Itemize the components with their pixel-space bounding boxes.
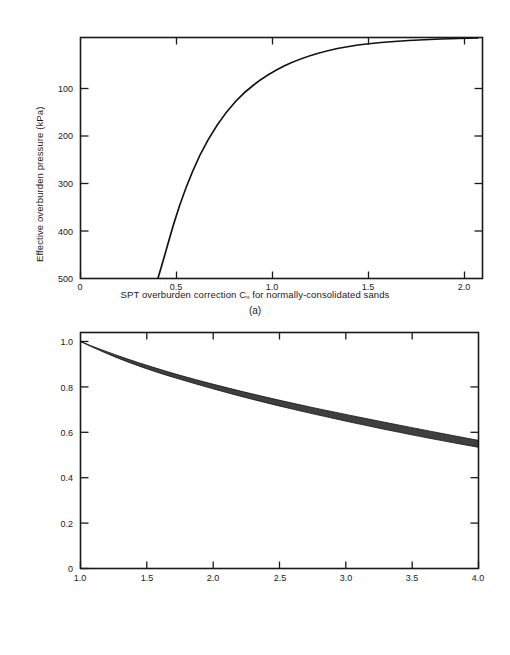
panel-a-axes-frame — [81, 38, 483, 279]
panel-a-ytick-500: 500 — [58, 274, 73, 284]
panel-a-ylabel: Effective overburden pressure (kPa) — [34, 107, 45, 262]
panel-a-ytick-200: 200 — [58, 131, 73, 141]
panel-b-xticks — [81, 562, 479, 569]
panel-b-xtick-2-0: 2.0 — [207, 573, 220, 583]
panel-a-curve — [158, 38, 478, 278]
figure-container: 0 0.5 1.0 1.5 2.0 100 200 300 400 500 Ef… — [0, 0, 510, 655]
panel-b-ytick-0-4: 0.4 — [60, 473, 73, 483]
panel-a-ytick-100: 100 — [58, 84, 73, 94]
panel-a-xlabel-prefix: SPT overburden correction C — [121, 289, 247, 300]
panel-a-xlabel: SPT overburden correction Cn for normall… — [0, 289, 510, 300]
panel-b-xtick-3-5: 3.5 — [406, 573, 419, 583]
panel-b-xtick-1-5: 1.5 — [141, 573, 154, 583]
panel-b-ytick-0-2: 0.2 — [60, 519, 73, 529]
panel-a-ytick-400: 400 — [58, 227, 73, 237]
panel-b-yticks — [81, 342, 89, 569]
panel-a: 0 0.5 1.0 1.5 2.0 100 200 300 400 500 Ef… — [0, 0, 510, 320]
panel-b-ytick-0: 0 — [68, 564, 73, 574]
panel-b-xtick-1-0: 1.0 — [74, 573, 87, 583]
panel-a-yticks-right — [475, 89, 483, 232]
panel-b-band — [81, 342, 479, 448]
panel-a-plot: 0 0.5 1.0 1.5 2.0 100 200 300 400 500 — [0, 0, 510, 320]
panel-a-caption: (a) — [0, 305, 510, 316]
panel-a-ytick-300: 300 — [58, 179, 73, 189]
panel-b-ytick-0-6: 0.6 — [60, 428, 73, 438]
panel-b-plot: 1.0 1.5 2.0 2.5 3.0 3.5 4.0 0 0.2 0.4 0.… — [0, 320, 510, 655]
panel-a-xlabel-suffix: for normally-consolidated sands — [249, 289, 389, 300]
panel-a-xticks-top — [177, 38, 465, 45]
panel-b-axes-frame — [81, 333, 479, 569]
panel-b: 1.0 1.5 2.0 2.5 3.0 3.5 4.0 0 0.2 0.4 0.… — [0, 320, 510, 655]
panel-a-xticks — [81, 272, 465, 279]
panel-b-ytick-1-0: 1.0 — [60, 337, 73, 347]
panel-b-xtick-2-5: 2.5 — [274, 573, 287, 583]
panel-b-xticks-top — [147, 333, 412, 340]
panel-b-yticks-right — [471, 387, 479, 523]
panel-b-xtick-4-0: 4.0 — [472, 573, 485, 583]
panel-b-ytick-0-8: 0.8 — [60, 383, 73, 393]
panel-b-xtick-3-0: 3.0 — [340, 573, 353, 583]
panel-a-yticks — [81, 89, 89, 232]
